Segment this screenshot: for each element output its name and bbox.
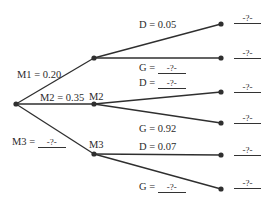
edge-label-m1-d: D = 0.05 (139, 19, 176, 31)
edge-m2-d (94, 92, 221, 104)
edge-label-m2-d: D = -?- (139, 77, 186, 89)
edge-m3-d (94, 154, 221, 155)
node-root (13, 101, 18, 106)
leaf-m2-d (218, 89, 223, 94)
edge-label-m3-prefix: M3 = (12, 136, 35, 147)
result-blank-m3-g: -?- (234, 178, 261, 189)
edge-label-m3-g: G = -?- (139, 181, 186, 193)
result-blank-m3-d: -?- (234, 145, 261, 156)
edge-label-m1: M1 = 0.20 (17, 69, 61, 81)
leaf-m3-d (218, 152, 223, 157)
edge-label-m3-g-blank: -?- (158, 182, 186, 193)
node-label-m2: M2 (89, 91, 104, 103)
leaf-m3-g (218, 186, 223, 191)
edge-label-m3-blank: -?- (38, 137, 66, 148)
edge-label-m3-d: D = 0.07 (139, 141, 176, 153)
leaf-m1-d (218, 21, 223, 26)
result-blank-m2-d: -?- (234, 82, 261, 93)
edge-label-m2-d-prefix: D = (139, 77, 155, 88)
edge-label-m3: M3 = -?- (12, 136, 66, 148)
node-label-m3: M3 (89, 139, 104, 151)
result-blank-m1-d: -?- (234, 13, 261, 24)
node-m1 (91, 55, 96, 60)
leaf-m1-g (218, 55, 223, 60)
edge-label-m2-g: G = 0.92 (139, 123, 176, 135)
edge-m2-g (94, 104, 221, 123)
result-blank-m2-g: -?- (234, 113, 261, 124)
leaf-m2-g (218, 120, 223, 125)
edge-label-m3-g-prefix: G = (139, 181, 155, 192)
node-m3 (91, 151, 96, 156)
edge-label-m2-d-blank: -?- (158, 78, 186, 89)
result-blank-m1-g: -?- (234, 48, 261, 59)
edge-label-m1-g-prefix: G = (139, 62, 155, 73)
edge-label-m2: M2 = 0.35 (40, 92, 84, 104)
edge-label-m1-g-blank: -?- (158, 63, 186, 74)
edge-label-m1-g: G = -?- (139, 62, 186, 74)
